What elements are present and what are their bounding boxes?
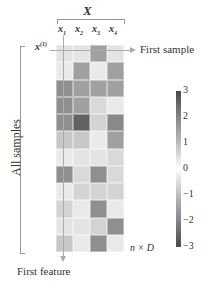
heatmap-cell (73, 45, 90, 62)
heatmap-cell (56, 183, 73, 200)
heatmap-cell (107, 97, 124, 114)
heatmap-cell (90, 183, 107, 200)
heatmap-cell (90, 131, 107, 148)
column-header-x1: x1 (58, 23, 66, 36)
heatmap-cell (73, 80, 90, 97)
heatmap-cell (107, 114, 124, 131)
heatmap-cell (90, 80, 107, 97)
heatmap-cell (107, 131, 124, 148)
heatmap-cell (90, 200, 107, 217)
all-samples-label: All samples (9, 108, 24, 188)
heatmap-cell (90, 218, 107, 235)
heatmap-cell (73, 131, 90, 148)
heatmap-cell (56, 149, 73, 166)
heatmap-cell (56, 114, 73, 131)
heatmap-cell (56, 97, 73, 114)
heatmap-cell (73, 200, 90, 217)
heatmap-cell (73, 166, 90, 183)
heatmap-cell (107, 166, 124, 183)
colorbar-tick: 2 (183, 110, 188, 121)
arrow-down-icon (60, 256, 66, 262)
heatmap-cell (56, 218, 73, 235)
heatmap-cell (73, 183, 90, 200)
colorbar-tick: −2 (183, 214, 194, 225)
heatmap-cell (56, 235, 73, 252)
first-row-label: x(1) (35, 41, 47, 52)
column-header-x4: x4 (109, 23, 117, 36)
first-feature-label: First feature (17, 265, 70, 277)
heatmap-cell (73, 62, 90, 79)
colorbar-tick: −3 (183, 240, 194, 251)
heatmap-cell (90, 62, 107, 79)
first-feature-line (63, 36, 64, 258)
heatmap-cell (56, 62, 73, 79)
colorbar-tick: 3 (183, 84, 188, 95)
heatmap-cell (90, 114, 107, 131)
colorbar (176, 91, 181, 247)
heatmap-cell (90, 149, 107, 166)
column-header-x2: x2 (75, 23, 83, 36)
heatmap-cell (56, 166, 73, 183)
heatmap-cell (107, 62, 124, 79)
heatmap-cell (107, 80, 124, 97)
size-label: n × D (130, 242, 154, 253)
heatmap-cell (73, 149, 90, 166)
heatmap-cell (56, 45, 73, 62)
heatmap-cell (107, 235, 124, 252)
first-sample-line (50, 50, 132, 51)
colorbar-tick: 0 (183, 162, 188, 173)
heatmap-cell (107, 218, 124, 235)
heatmap-cell (90, 166, 107, 183)
colorbar-tick: 1 (183, 136, 188, 147)
heatmap-cell (107, 149, 124, 166)
heatmap-cell (90, 97, 107, 114)
heatmap-grid (56, 45, 124, 252)
heatmap-cell (56, 131, 73, 148)
heatmap-cell (56, 80, 73, 97)
heatmap-cell (107, 183, 124, 200)
heatmap-cell (73, 97, 90, 114)
matrix-title: X (83, 3, 92, 19)
first-sample-label: First sample (140, 43, 194, 55)
column-header-x3: x3 (92, 23, 100, 36)
heatmap-cell (90, 45, 107, 62)
heatmap-cell (73, 218, 90, 235)
arrow-right-icon (130, 47, 136, 53)
heatmap-cell (56, 200, 73, 217)
heatmap-cell (90, 235, 107, 252)
colorbar-tick: −1 (183, 188, 194, 199)
heatmap-cell (73, 235, 90, 252)
heatmap-cell (107, 45, 124, 62)
heatmap-cell (73, 114, 90, 131)
heatmap-cell (107, 200, 124, 217)
